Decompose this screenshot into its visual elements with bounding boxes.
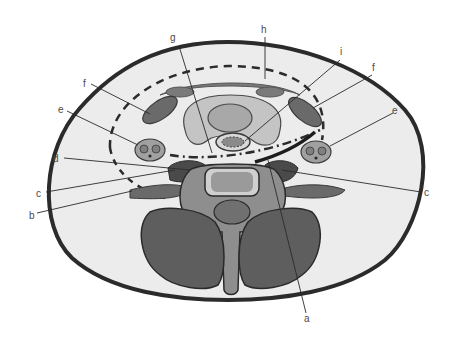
label-f-right: f [372, 62, 375, 73]
label-c-left: c [36, 188, 41, 199]
strap-muscle-left [166, 87, 194, 97]
neck-cross-section-diagram: a b c c d e e f f g h i [0, 0, 457, 339]
label-b: b [29, 210, 35, 221]
esophagus-lumen [222, 137, 244, 147]
vertebral-body-inner [211, 172, 253, 192]
label-d: d [53, 153, 59, 164]
carotid-sheath-left [135, 139, 165, 161]
carotid-sheath-right [301, 141, 331, 163]
label-c-right: c [424, 187, 429, 198]
label-a: a [304, 313, 310, 324]
label-g: g [170, 32, 176, 43]
spinal-cord [214, 200, 250, 224]
label-h: h [261, 24, 267, 35]
label-e-right: e [392, 105, 398, 116]
label-i: i [340, 46, 342, 57]
label-e-left: e [58, 104, 64, 115]
trachea [208, 104, 252, 132]
label-f-left: f [83, 78, 86, 89]
strap-muscle-right [256, 87, 284, 97]
